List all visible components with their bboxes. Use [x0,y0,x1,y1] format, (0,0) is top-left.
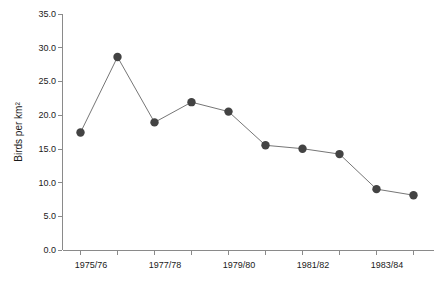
data-point [409,191,417,199]
y-tick-label: 30.0 [38,43,56,53]
data-point [150,118,158,126]
y-tick-label: 5.0 [43,211,56,221]
y-tick-label: 20.0 [38,110,56,120]
data-point [187,98,195,106]
data-point [76,128,84,136]
y-tick-label: 10.0 [38,178,56,188]
data-point [261,141,269,149]
chart-page: Birds per km² 0.0 5.0 10.0 15.0 20.0 25.… [0,0,444,282]
y-tick-label: 0.0 [43,245,56,255]
data-point [335,150,343,158]
x-tick-label: 1979/80 [223,260,256,270]
y-tick-label: 15.0 [38,144,56,154]
data-point [298,144,306,152]
series-line [81,57,414,195]
x-tick-label: 1975/76 [75,260,108,270]
x-tick-label: 1983/84 [371,260,404,270]
data-point [113,53,121,61]
x-tick-label: 1981/82 [297,260,330,270]
y-tick-label: 35.0 [38,9,56,19]
line-chart: Birds per km² 0.0 5.0 10.0 15.0 20.0 25.… [0,0,444,282]
x-tick-label: 1977/78 [149,260,182,270]
data-point [372,185,380,193]
data-point [224,107,232,115]
y-tick-label: 25.0 [38,76,56,86]
y-axis-title: Birds per km² [13,102,24,162]
